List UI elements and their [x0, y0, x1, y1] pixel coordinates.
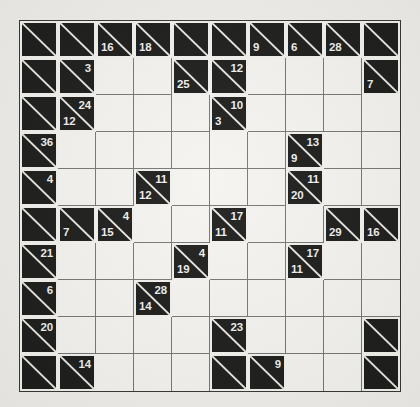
kakuro-clue-cell: 7	[362, 58, 400, 95]
kakuro-entry-cell[interactable]	[58, 132, 96, 169]
kakuro-entry-cell[interactable]	[248, 243, 286, 280]
kakuro-entry-cell[interactable]	[210, 243, 248, 280]
diagonal-divider-icon	[22, 60, 56, 93]
across-clue-number: 13	[307, 137, 319, 149]
down-clue-number: 16	[101, 42, 113, 54]
kakuro-clue-cell: 18	[134, 21, 172, 58]
kakuro-entry-cell[interactable]	[58, 317, 96, 354]
kakuro-entry-cell[interactable]	[248, 95, 286, 132]
kakuro-entry-cell[interactable]	[134, 317, 172, 354]
kakuro-entry-cell[interactable]	[134, 58, 172, 95]
kakuro-entry-cell[interactable]	[96, 169, 134, 206]
kakuro-entry-cell[interactable]	[58, 169, 96, 206]
kakuro-entry-cell[interactable]	[324, 169, 362, 206]
kakuro-clue-cell: 21	[20, 243, 58, 280]
kakuro-entry-cell[interactable]	[134, 243, 172, 280]
kakuro-clue-cell: 2814	[134, 280, 172, 317]
kakuro-entry-cell[interactable]	[172, 169, 210, 206]
across-clue-number: 11	[155, 174, 167, 186]
kakuro-entry-cell[interactable]	[96, 317, 134, 354]
kakuro-entry-cell[interactable]	[96, 132, 134, 169]
kakuro-entry-cell[interactable]	[134, 95, 172, 132]
kakuro-clue-cell	[20, 58, 58, 95]
kakuro-clue-cell: 23	[210, 317, 248, 354]
kakuro-entry-cell[interactable]	[324, 280, 362, 317]
kakuro-clue-cell: 36	[20, 132, 58, 169]
kakuro-entry-cell[interactable]	[96, 280, 134, 317]
kakuro-entry-cell[interactable]	[58, 243, 96, 280]
kakuro-entry-cell[interactable]	[362, 243, 400, 280]
kakuro-entry-cell[interactable]	[324, 95, 362, 132]
kakuro-entry-cell[interactable]	[248, 280, 286, 317]
diagonal-divider-icon	[364, 356, 398, 389]
across-clue-number: 6	[47, 285, 53, 297]
diagonal-divider-icon	[22, 23, 56, 56]
down-clue-number: 19	[177, 264, 189, 276]
kakuro-entry-cell[interactable]	[286, 280, 324, 317]
down-clue-number: 7	[367, 79, 373, 91]
kakuro-clue-cell: 2412	[58, 95, 96, 132]
kakuro-grid[interactable]: 1618962832512724121033613941112112074151…	[19, 20, 401, 392]
down-clue-number: 9	[291, 153, 297, 165]
diagonal-divider-icon	[212, 356, 246, 389]
across-clue-number: 4	[123, 211, 129, 223]
kakuro-entry-cell[interactable]	[286, 317, 324, 354]
kakuro-clue-cell	[172, 21, 210, 58]
down-clue-number: 9	[253, 42, 259, 54]
kakuro-entry-cell[interactable]	[324, 243, 362, 280]
kakuro-entry-cell[interactable]	[96, 58, 134, 95]
kakuro-entry-cell[interactable]	[248, 132, 286, 169]
kakuro-clue-cell: 9	[248, 354, 286, 391]
kakuro-entry-cell[interactable]	[362, 169, 400, 206]
kakuro-entry-cell[interactable]	[286, 95, 324, 132]
kakuro-entry-cell[interactable]	[96, 243, 134, 280]
kakuro-clue-cell	[210, 21, 248, 58]
kakuro-clue-cell: 16	[362, 206, 400, 243]
diagonal-divider-icon	[22, 356, 56, 389]
kakuro-entry-cell[interactable]	[248, 317, 286, 354]
kakuro-entry-cell[interactable]	[58, 280, 96, 317]
across-clue-number: 14	[79, 359, 91, 371]
kakuro-entry-cell[interactable]	[96, 95, 134, 132]
kakuro-entry-cell[interactable]	[362, 95, 400, 132]
kakuro-entry-cell[interactable]	[286, 206, 324, 243]
across-clue-number: 28	[155, 285, 167, 297]
kakuro-entry-cell[interactable]	[248, 169, 286, 206]
kakuro-entry-cell[interactable]	[172, 280, 210, 317]
kakuro-entry-cell[interactable]	[248, 58, 286, 95]
kakuro-entry-cell[interactable]	[324, 317, 362, 354]
kakuro-entry-cell[interactable]	[362, 132, 400, 169]
kakuro-clue-cell	[20, 206, 58, 243]
kakuro-entry-cell[interactable]	[210, 280, 248, 317]
kakuro-entry-cell[interactable]	[172, 354, 210, 391]
kakuro-entry-cell[interactable]	[172, 132, 210, 169]
kakuro-entry-cell[interactable]	[286, 354, 324, 391]
kakuro-clue-cell	[58, 21, 96, 58]
across-clue-number: 21	[41, 248, 53, 260]
kakuro-entry-cell[interactable]	[324, 58, 362, 95]
kakuro-entry-cell[interactable]	[210, 132, 248, 169]
down-clue-number: 16	[367, 227, 379, 239]
kakuro-entry-cell[interactable]	[172, 206, 210, 243]
across-clue-number: 9	[275, 359, 281, 371]
kakuro-entry-cell[interactable]	[324, 132, 362, 169]
across-clue-number: 11	[307, 174, 319, 186]
kakuro-entry-cell[interactable]	[324, 354, 362, 391]
kakuro-entry-cell[interactable]	[172, 317, 210, 354]
kakuro-entry-cell[interactable]	[248, 206, 286, 243]
kakuro-clue-cell: 3	[58, 58, 96, 95]
kakuro-clue-cell: 6	[20, 280, 58, 317]
down-clue-number: 15	[101, 227, 113, 239]
kakuro-entry-cell[interactable]	[286, 58, 324, 95]
kakuro-entry-cell[interactable]	[172, 95, 210, 132]
kakuro-clue-cell: 139	[286, 132, 324, 169]
down-clue-number: 18	[139, 42, 151, 54]
kakuro-clue-cell: 1112	[134, 169, 172, 206]
kakuro-entry-cell[interactable]	[96, 354, 134, 391]
kakuro-entry-cell[interactable]	[134, 132, 172, 169]
kakuro-entry-cell[interactable]	[362, 280, 400, 317]
kakuro-entry-cell[interactable]	[134, 354, 172, 391]
kakuro-entry-cell[interactable]	[210, 169, 248, 206]
kakuro-entry-cell[interactable]	[134, 206, 172, 243]
down-clue-number: 28	[329, 42, 341, 54]
